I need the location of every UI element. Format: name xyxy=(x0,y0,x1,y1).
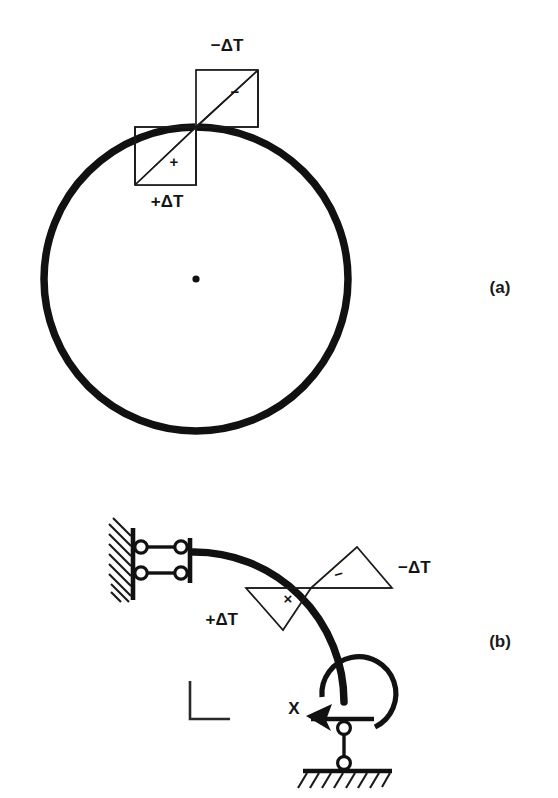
plus-delta-t-label-a: +ΔT xyxy=(151,192,184,211)
bowtie-upper-sign-b: − xyxy=(332,564,345,583)
bowtie-upper-triangle-b xyxy=(311,547,392,588)
pin-circle-lower xyxy=(338,757,351,770)
left-wall-hatching xyxy=(109,518,131,602)
pin-circle-upper xyxy=(338,722,351,735)
ground-hatching xyxy=(298,773,390,788)
bottom-pin-support xyxy=(298,719,392,788)
roller-pin-top-right xyxy=(175,541,187,553)
axis-marker xyxy=(190,681,230,719)
minus-delta-t-label-a: −ΔT xyxy=(211,36,244,55)
roller-pin-bottom-right xyxy=(175,567,187,579)
panel-label-b: (b) xyxy=(489,632,511,651)
panel-b-group: − × −ΔT +ΔT xyxy=(109,518,511,788)
panel-a-group: − + −ΔT +ΔT (a) xyxy=(44,36,510,431)
minus-delta-t-label-b: −ΔT xyxy=(398,558,431,577)
technical-figure-canvas: − + −ΔT +ΔT (a) xyxy=(0,0,558,798)
roller-pin-top-left xyxy=(135,541,147,553)
bowtie-lower-sign-b: × xyxy=(284,590,293,607)
bowtie-upper-sign-a: − xyxy=(231,83,240,100)
left-roller-rows xyxy=(135,541,187,579)
redundant-force-label: X xyxy=(288,699,300,718)
plus-delta-t-label-b: +ΔT xyxy=(205,610,238,629)
roller-pin-bottom-left xyxy=(135,567,147,579)
axis-marker-lines xyxy=(190,681,230,719)
left-roller-support xyxy=(109,518,190,602)
bowtie-lower-sign-a: + xyxy=(170,153,179,170)
panel-label-a: (a) xyxy=(490,278,511,297)
ring-center-dot xyxy=(192,275,199,282)
moment-arc-path xyxy=(322,657,396,727)
figure-root: − + −ΔT +ΔT (a) xyxy=(0,0,558,798)
